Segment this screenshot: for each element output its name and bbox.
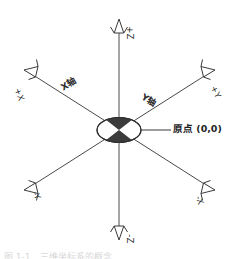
arrow-head-x-positive (24, 60, 38, 80)
figure-caption: 图 1-1 三维坐标系的概念 (4, 250, 236, 259)
origin-label: 原点 (0,0) (173, 124, 222, 134)
coordinate-diagram: +Z -Z +X -X +Y -Y X轴 Y轴 原点 (0,0) 图 1-1 三… (0, 0, 239, 259)
axis-tip-label-z-positive: +Z (126, 26, 135, 39)
arrow-head-y-positive (201, 60, 215, 80)
axis-tip-label-z-negative: -Z (126, 234, 135, 243)
origin-marker (96, 112, 142, 148)
